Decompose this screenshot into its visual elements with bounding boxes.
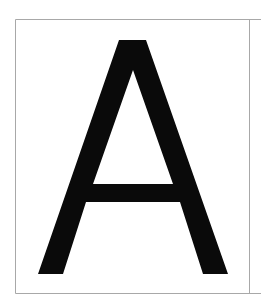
page-canvas: A — [0, 0, 261, 296]
